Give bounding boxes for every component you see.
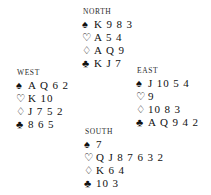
heart-icon: ♡ <box>84 151 95 164</box>
spade-icon: ♠ <box>16 79 27 92</box>
hand-label-east: EAST <box>136 66 199 76</box>
diamond-icon: ♢ <box>82 44 93 57</box>
north-spade-row: ♠ K 9 8 3 <box>82 18 133 31</box>
west-diamond-row: ♢ J 7 5 2 <box>16 105 69 118</box>
heart-icon: ♡ <box>82 31 93 44</box>
spade-icon: ♠ <box>136 77 147 90</box>
east-diamond-cards: 10 8 3 <box>147 103 181 116</box>
north-club-row: ♣ K J 7 <box>82 57 133 70</box>
west-spade-row: ♠ A Q 6 2 <box>16 79 69 92</box>
north-diamond-row: ♢ A Q 9 <box>82 44 133 57</box>
east-heart-row: ♡ 9 <box>136 90 199 103</box>
north-club-cards: K J 7 <box>93 57 122 70</box>
north-diamond-cards: A Q 9 <box>93 44 125 57</box>
east-spade-cards: J 10 5 4 <box>147 77 190 90</box>
diamond-icon: ♢ <box>84 164 95 177</box>
west-spade-cards: A Q 6 2 <box>27 79 69 92</box>
east-heart-cards: 9 <box>147 90 154 103</box>
south-heart-cards: Q J 8 7 6 3 2 <box>95 151 164 164</box>
hand-west: WEST ♠ A Q 6 2 ♡ K 10 ♢ J 7 5 2 ♣ 8 6 5 <box>16 68 69 131</box>
hand-label-north: NORTH <box>82 7 133 17</box>
east-diamond-row: ♢ 10 8 3 <box>136 103 199 116</box>
club-icon: ♣ <box>84 177 95 190</box>
hand-south: SOUTH ♠ 7 ♡ Q J 8 7 6 3 2 ♢ K 6 4 ♣ 10 3 <box>84 127 164 190</box>
south-spade-row: ♠ 7 <box>84 138 164 151</box>
east-spade-row: ♠ J 10 5 4 <box>136 77 199 90</box>
north-heart-row: ♡ A 5 4 <box>82 31 133 44</box>
north-heart-cards: A 5 4 <box>93 31 122 44</box>
spade-icon: ♠ <box>84 138 95 151</box>
hand-label-west: WEST <box>16 68 69 78</box>
diamond-icon: ♢ <box>136 103 147 116</box>
club-icon: ♣ <box>16 118 27 131</box>
spade-icon: ♠ <box>82 18 93 31</box>
west-club-row: ♣ 8 6 5 <box>16 118 69 131</box>
heart-icon: ♡ <box>136 90 147 103</box>
north-spade-cards: K 9 8 3 <box>93 18 133 31</box>
west-club-cards: 8 6 5 <box>27 118 55 131</box>
south-diamond-cards: K 6 4 <box>95 164 125 177</box>
diamond-icon: ♢ <box>16 105 27 118</box>
south-club-cards: 10 3 <box>95 177 119 190</box>
south-heart-row: ♡ Q J 8 7 6 3 2 <box>84 151 164 164</box>
bridge-hand-diagram: NORTH ♠ K 9 8 3 ♡ A 5 4 ♢ A Q 9 ♣ K J 7 … <box>0 0 211 195</box>
hand-label-south: SOUTH <box>84 127 164 137</box>
heart-icon: ♡ <box>16 92 27 105</box>
west-heart-cards: K 10 <box>27 92 53 105</box>
south-club-row: ♣ 10 3 <box>84 177 164 190</box>
south-diamond-row: ♢ K 6 4 <box>84 164 164 177</box>
hand-north: NORTH ♠ K 9 8 3 ♡ A 5 4 ♢ A Q 9 ♣ K J 7 <box>82 7 133 70</box>
west-heart-row: ♡ K 10 <box>16 92 69 105</box>
hand-east: EAST ♠ J 10 5 4 ♡ 9 ♢ 10 8 3 ♣ A Q 9 4 2 <box>136 66 199 129</box>
south-spade-cards: 7 <box>95 138 102 151</box>
club-icon: ♣ <box>82 57 93 70</box>
west-diamond-cards: J 7 5 2 <box>27 105 63 118</box>
